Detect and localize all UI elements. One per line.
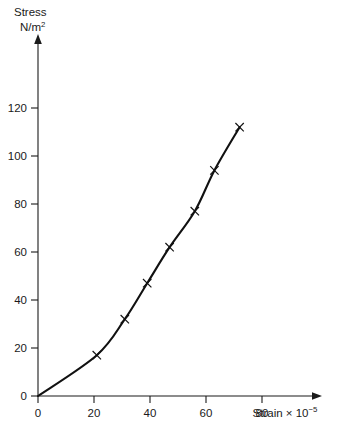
data-point-marker [165, 243, 173, 251]
y-tick-label-60: 60 [14, 246, 27, 258]
y-tick-label-0: 0 [21, 390, 27, 402]
data-curve [38, 127, 240, 396]
y-axis-tick-labels: 120 100 80 60 40 20 0 [8, 102, 27, 402]
y-axis-title-line1: Stress [14, 6, 47, 18]
data-point-marker [235, 123, 243, 131]
y-axis-ticks [31, 108, 38, 396]
x-axis-tick-labels: 0 20 40 60 80 [35, 407, 269, 419]
y-axis-title-line2: N/m2 [20, 20, 45, 33]
y-tick-label-120: 120 [8, 102, 27, 114]
y-tick-label-80: 80 [14, 198, 27, 210]
x-tick-label-60: 60 [200, 407, 213, 419]
y-tick-label-20: 20 [14, 342, 27, 354]
y-axis-arrowhead [34, 34, 42, 44]
y-tick-label-100: 100 [8, 150, 27, 162]
x-tick-label-20: 20 [88, 407, 101, 419]
data-point-marker [121, 315, 129, 323]
x-tick-label-40: 40 [144, 407, 157, 419]
x-axis [38, 392, 322, 400]
x-axis-arrowhead [312, 392, 322, 400]
stress-strain-chart: Stress N/m2 120 100 80 60 40 [0, 0, 351, 431]
x-axis-ticks [38, 396, 262, 403]
y-tick-label-40: 40 [14, 294, 27, 306]
data-point-marker [93, 351, 101, 359]
data-point-marker [143, 279, 151, 287]
x-axis-title: Strain × 10−5 [253, 405, 319, 419]
x-tick-label-0: 0 [35, 407, 41, 419]
data-point-marker [210, 166, 218, 174]
chart-svg: Stress N/m2 120 100 80 60 40 [0, 0, 351, 431]
y-axis [34, 34, 42, 396]
data-point-marker [191, 207, 199, 215]
